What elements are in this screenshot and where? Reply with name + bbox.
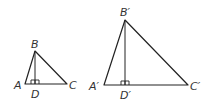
label-c: C: [69, 79, 77, 92]
triangle-abc-outline: [25, 51, 67, 84]
label-b: B: [31, 38, 39, 51]
label-b-prime: B′: [120, 6, 131, 19]
label-a-prime: A′: [88, 80, 100, 93]
triangle-a-prime-b-prime-c-prime-outline: [104, 20, 188, 85]
label-a: A: [13, 79, 22, 92]
triangle-abc: B A C D: [13, 38, 77, 101]
label-d-prime: D′: [120, 89, 131, 102]
triangle-a-prime-b-prime-c-prime: B′ A′ C′ D′: [88, 6, 201, 102]
label-c-prime: C′: [190, 80, 201, 93]
label-d: D: [31, 88, 39, 101]
similar-triangles-diagram: B A C D B′ A′ C′ D′: [0, 0, 211, 103]
